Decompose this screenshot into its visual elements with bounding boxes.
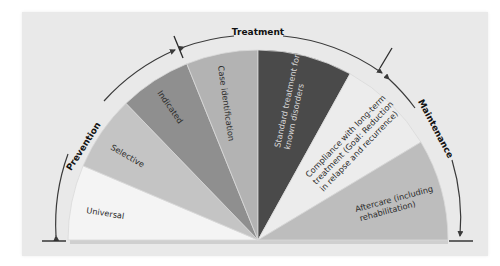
fan-base-shadow xyxy=(70,240,448,244)
treatment-arc-left xyxy=(184,36,234,47)
tick-treatment-maintenance xyxy=(380,48,392,68)
tick-prevention-treatment xyxy=(174,36,183,58)
maintenance-arc-lower xyxy=(452,160,461,236)
phase-label-treatment: Treatment xyxy=(232,27,285,37)
spectrum-diagram: Prevention Treatment Maintenance Univers… xyxy=(0,0,500,266)
